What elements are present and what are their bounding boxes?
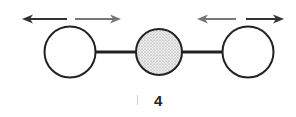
center-atom	[136, 29, 182, 75]
scan-mark	[137, 95, 138, 105]
right-arrow-in-icon	[197, 15, 236, 24]
figure-label: 4	[154, 92, 162, 109]
vibration-diagram	[0, 0, 296, 117]
left-arrow-in-icon	[75, 15, 121, 24]
right-arrow-out-icon	[246, 15, 284, 24]
left-arrow-out-icon	[22, 15, 67, 24]
left-atom	[45, 27, 96, 78]
right-atom	[223, 27, 274, 78]
